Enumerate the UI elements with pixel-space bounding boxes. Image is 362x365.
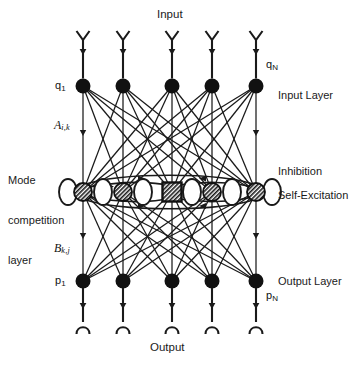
output-terminal	[117, 288, 130, 334]
mode-node	[114, 183, 132, 201]
mode-node	[247, 183, 265, 201]
p-first-sub: 1	[61, 279, 65, 288]
output-node	[116, 274, 131, 289]
p-first-label: p1	[55, 274, 66, 289]
input-node	[205, 79, 220, 94]
output-title: Output	[150, 340, 185, 354]
mode-node-square	[163, 183, 182, 202]
input-node	[165, 79, 180, 94]
q-first-sub: 1	[61, 84, 65, 93]
input-terminal	[206, 31, 219, 79]
mode-competition-layer-label: Mode competition layer	[8, 147, 84, 294]
output-layer-label: Output Layer	[278, 275, 342, 289]
inhibition-label: Inhibition	[278, 165, 322, 179]
input-node	[116, 79, 131, 94]
mode-competition-line-3: layer	[8, 254, 84, 267]
output-terminal	[77, 288, 90, 334]
input-layer-label: Input Layer	[278, 89, 333, 103]
self-excitation-label: Self-Excitation	[278, 189, 348, 203]
weight-b-sub: k,j	[61, 246, 70, 255]
input-terminals	[77, 31, 263, 79]
output-terminals	[77, 288, 263, 334]
output-terminal	[166, 288, 179, 334]
input-terminal	[166, 31, 179, 79]
input-terminal	[117, 31, 130, 79]
output-node	[205, 274, 220, 289]
q-last-label: qN	[266, 58, 278, 73]
weight-b-label: Bk,j	[54, 241, 70, 257]
input-terminal	[77, 31, 90, 79]
output-layer-nodes	[76, 274, 264, 289]
mode-competition-line-1: Mode	[8, 174, 84, 187]
input-node	[76, 79, 91, 94]
input-terminal	[250, 31, 263, 79]
input-title: Input	[157, 7, 183, 21]
output-terminal	[250, 288, 263, 334]
mode-node	[203, 183, 221, 201]
output-terminal	[206, 288, 219, 334]
output-node	[249, 274, 264, 289]
input-layer-nodes	[76, 79, 264, 94]
q-first-label: q1	[55, 79, 66, 94]
q-last-sub: N	[272, 63, 278, 72]
input-node	[249, 79, 264, 94]
network-diagram: Input Output Input Layer Output Layer In…	[0, 0, 362, 365]
weight-a-sub: i,k	[61, 123, 70, 132]
output-node	[165, 274, 180, 289]
weight-a-label: Ai,k	[54, 118, 70, 134]
p-last-label: pN	[266, 289, 278, 304]
p-last-sub: N	[272, 294, 278, 303]
mode-competition-line-2: competition	[8, 214, 84, 227]
